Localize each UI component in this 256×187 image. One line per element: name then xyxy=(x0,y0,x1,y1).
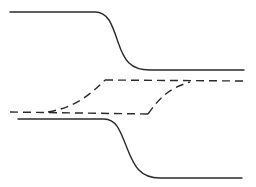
diagram-canvas xyxy=(0,0,256,187)
upper-solid-step-curve xyxy=(10,12,244,70)
dashed-loop-right-branch xyxy=(148,82,190,114)
dashed-loop-top-branch xyxy=(105,80,245,81)
lower-solid-step-curve xyxy=(18,119,242,178)
dashed-loop-left-branch xyxy=(48,80,105,112)
dashed-loop-bottom-branch xyxy=(10,112,148,114)
